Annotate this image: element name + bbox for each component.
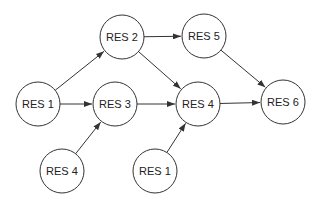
graph-node-res-1: RES 1 [16,82,60,126]
dependency-graph: RES 1RES 2RES 3RES 4RES 5RES 6RES 4RES 1 [0,0,318,204]
node-label: RES 5 [188,30,220,42]
node-label: RES 3 [99,98,131,110]
graph-node-res-3: RES 3 [93,82,137,126]
edge-arrow [76,122,101,154]
node-label: RES 4 [46,165,78,177]
graph-node-res-2: RES 2 [100,15,144,59]
node-label: RES 1 [22,98,54,110]
edge-arrow [55,51,104,90]
edge-arrow [221,50,265,87]
graph-node-res-1: RES 1 [133,149,177,193]
node-label: RES 1 [139,165,171,177]
graph-node-res-4: RES 4 [40,149,84,193]
node-label: RES 2 [106,31,138,43]
node-label: RES 4 [182,98,214,110]
graph-node-res-6: RES 6 [261,80,305,124]
edge-arrow [220,103,260,104]
graph-node-res-4: RES 4 [176,82,220,126]
edges-layer [55,36,265,153]
edge-arrow [139,52,181,89]
graph-node-res-5: RES 5 [182,14,226,58]
edge-arrow [167,123,186,152]
node-label: RES 6 [267,96,299,108]
